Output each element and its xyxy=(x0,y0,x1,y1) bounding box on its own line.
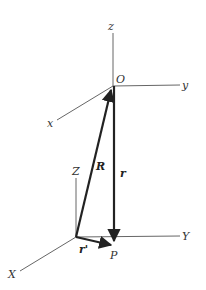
lower-y-axis xyxy=(76,236,180,237)
label-vector-r-prime: r' xyxy=(79,243,88,256)
diagram-canvas: z O y x R r Z Y X r' P xyxy=(0,0,206,290)
label-point-P: P xyxy=(109,249,118,262)
lower-x-axis xyxy=(20,237,76,271)
label-vector-R: R xyxy=(95,160,105,173)
label-vector-r: r xyxy=(120,167,127,180)
label-upper-z: z xyxy=(107,20,114,33)
lower-frame xyxy=(20,178,180,271)
vector-R xyxy=(76,90,111,237)
label-upper-x: x xyxy=(47,117,54,130)
vector-diagram: z O y x R r Z Y X r' P xyxy=(0,0,206,290)
label-origin-O: O xyxy=(116,73,125,86)
label-lower-Y: Y xyxy=(182,230,191,243)
label-lower-X: X xyxy=(7,268,17,281)
label-lower-Z: Z xyxy=(71,165,80,178)
label-upper-y: y xyxy=(181,79,189,92)
vectors xyxy=(76,86,114,245)
